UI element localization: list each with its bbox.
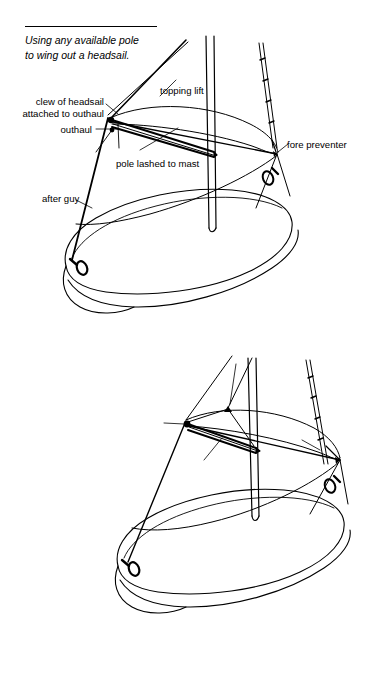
pole-inboard-end (214, 152, 217, 157)
mast-left-side (248, 358, 252, 516)
bow-line-to-clew (189, 426, 340, 460)
bow-curve-to-deck (132, 462, 339, 530)
hull-side-lower-edge (120, 530, 350, 607)
figure-spinnaker-pole: Using a spinnaker pole to wing out a hea… (0, 338, 369, 678)
bow-cleat-loop (323, 478, 338, 495)
leader-spinnaker-pole (204, 438, 222, 460)
topping-lift-bridle-left (188, 409, 228, 422)
outhaul-vertical (118, 124, 119, 148)
bow-cleat-icon (334, 476, 340, 482)
label-pole-lashed-to-mast: pole lashed to mast (116, 158, 199, 170)
label-clew-of-headsail: clew of headsail attached to outhaul (0, 96, 104, 119)
bow-cleat-icon (272, 168, 278, 174)
leader-fore-guy (302, 440, 320, 450)
caption-line-2: to wing out a headsail. (25, 48, 157, 63)
label-topping-lift: topping lift (160, 85, 204, 97)
mast-foot (209, 228, 216, 232)
figure-bottom-drawing (0, 338, 369, 678)
hull-transom-inner (66, 266, 86, 290)
forestay-line-b (263, 43, 277, 148)
figure-any-available-pole: Using any available pole to wing out a h… (0, 0, 369, 340)
hull-topside-band (66, 223, 292, 295)
mast-foot (252, 516, 259, 521)
pole-center-line (113, 124, 213, 155)
stern-cleat-loop (75, 260, 90, 277)
topping-lift-bridle-point (224, 406, 232, 412)
label-outhaul: outhaul (0, 124, 92, 136)
label-fore-preventer: fore preventer (287, 139, 347, 151)
caption-line-1: Using any available pole (25, 33, 157, 48)
leader-clew (106, 104, 118, 114)
figure-top-caption: Using any available pole to wing out a h… (25, 26, 157, 62)
mast-right-side (256, 358, 259, 516)
hull-side-lower-edge (68, 230, 298, 307)
after-guy-line (72, 118, 108, 260)
bow-stay-down (340, 460, 348, 504)
diagram-page: Using any available pole to wing out a h… (0, 0, 369, 678)
bow-stay-down (277, 154, 290, 196)
stern-cleat-loop (127, 561, 142, 578)
caption-rule (25, 26, 157, 27)
label-after-guy: after guy (42, 193, 79, 205)
forestay-hank-2 (311, 396, 316, 398)
mast-right-side (214, 36, 216, 228)
hull-sheer-line (72, 197, 282, 258)
forestay-hank-4 (318, 438, 323, 440)
mast-left-side (206, 36, 209, 228)
leader-clew-snapped (164, 423, 184, 424)
hull-sheer-line (124, 497, 334, 558)
forestay-line-a (259, 43, 273, 148)
sheet-line (128, 423, 185, 562)
